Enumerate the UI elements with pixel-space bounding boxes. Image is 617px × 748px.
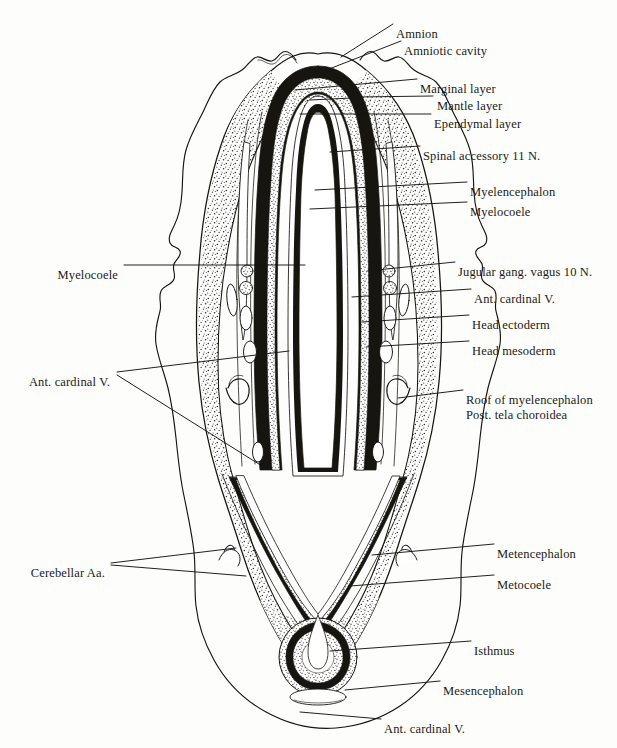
label-mantle-layer: Mantle layer (437, 99, 502, 115)
label-jugular-vagus: Jugular gang. vagus 10 N. (458, 265, 592, 281)
leader-ant-cardinal-v-l-b (117, 375, 262, 466)
label-mesencephalon: Mesencephalon (443, 684, 523, 700)
label-roof-myelencephalon-line2: Post. tela choroidea (466, 408, 593, 423)
label-ant-cardinal-v-b: Ant. cardinal V. (384, 722, 465, 738)
label-metocoele: Metocoele (497, 578, 551, 594)
drawing-canvas (0, 0, 617, 748)
label-myelocoele-r: Myelocoele (470, 205, 531, 221)
label-cerebellar-aa: Cerebellar Aa. (31, 566, 105, 582)
label-roof-myelencephalon-line1: Roof of myelencephalon (466, 393, 593, 408)
label-head-ectoderm: Head ectoderm (472, 318, 550, 334)
leader-cerebellar-aa-a (111, 548, 236, 563)
label-ant-cardinal-v-r: Ant. cardinal V. (474, 292, 555, 308)
label-isthmus: Isthmus (474, 644, 515, 660)
label-marginal-layer: Marginal layer (420, 82, 496, 98)
label-ependymal-layer: Ependymal layer (434, 117, 521, 133)
label-myelocoele-l: Myelocoele (57, 268, 118, 284)
label-spinal-accessory: Spinal accessory 11 N. (423, 149, 540, 165)
label-roof-myelencephalon: Roof of myelencephalonPost. tela choroid… (466, 393, 593, 424)
leader-mesencephalon (345, 681, 440, 690)
label-myelencephalon: Myelencephalon (470, 185, 555, 201)
leader-ant-cardinal-v-b (300, 712, 381, 719)
label-metencephalon: Metencephalon (497, 547, 576, 563)
myelocoele-lumen (288, 96, 348, 476)
anatomical-plate: AmnionAmniotic cavityMarginal layerMantl… (0, 0, 617, 748)
label-amnion: Amnion (396, 27, 438, 43)
label-amniotic-cavity: Amniotic cavity (404, 44, 487, 60)
label-ant-cardinal-v-l: Ant. cardinal V. (29, 375, 110, 391)
leader-cerebellar-aa-b (111, 565, 246, 576)
label-head-mesoderm: Head mesoderm (472, 344, 556, 360)
isthmus-mesencephalon (279, 615, 357, 705)
